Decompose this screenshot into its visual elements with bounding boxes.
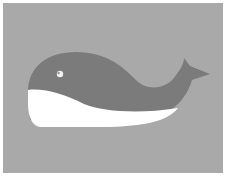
whale-eye (57, 71, 63, 77)
image-frame (0, 0, 226, 176)
whale-illustration (0, 0, 226, 176)
eye-white (57, 71, 63, 77)
eye-pupil (57, 72, 60, 75)
